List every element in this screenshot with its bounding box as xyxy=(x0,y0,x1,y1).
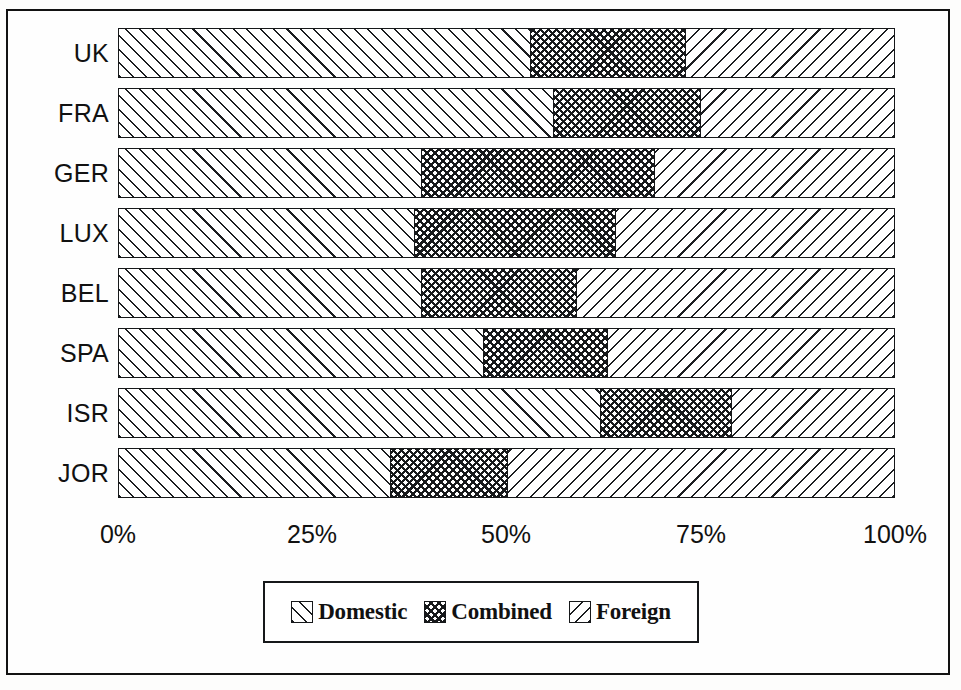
legend-label-combined: Combined xyxy=(451,599,552,625)
segment-combined xyxy=(421,149,654,197)
bar-track-spa xyxy=(118,328,895,378)
x-tick-0: 0% xyxy=(100,519,136,549)
segment-foreign xyxy=(507,449,895,497)
chart-legend: Domestic Combined Foreign xyxy=(263,581,699,643)
segment-foreign xyxy=(731,389,894,437)
segment-domestic xyxy=(119,449,390,497)
category-label-lux: LUX xyxy=(59,208,118,258)
segment-foreign xyxy=(700,89,894,137)
segment-domestic xyxy=(119,29,530,77)
segment-combined xyxy=(390,449,506,497)
legend-label-foreign: Foreign xyxy=(596,599,671,625)
bar-row: ISR xyxy=(118,388,895,438)
x-axis-tick-labels: 0% 25% 50% 75% 100% xyxy=(0,519,961,553)
bar-row: FRA xyxy=(118,88,895,138)
segment-domestic xyxy=(119,269,421,317)
segment-combined xyxy=(530,29,685,77)
segment-foreign xyxy=(576,269,894,317)
legend-entry-combined: Combined xyxy=(424,599,552,625)
category-label-fra: FRA xyxy=(58,88,118,138)
category-label-ger: GER xyxy=(54,148,118,198)
combined-crosshatch-swatch xyxy=(424,601,446,623)
segment-combined xyxy=(483,329,607,377)
figure-root: UK FRA GER xyxy=(0,0,961,690)
segment-domestic xyxy=(119,89,553,137)
segment-combined xyxy=(414,209,616,257)
bar-row: UK xyxy=(118,28,895,78)
bar-row: SPA xyxy=(118,328,895,378)
bar-row: BEL xyxy=(118,268,895,318)
legend-entry-foreign: Foreign xyxy=(569,599,671,625)
x-tick-75: 75% xyxy=(676,519,726,549)
bar-track-isr xyxy=(118,388,895,438)
segment-domestic xyxy=(119,329,483,377)
category-label-spa: SPA xyxy=(60,328,118,378)
x-tick-50: 50% xyxy=(481,519,531,549)
bar-row: GER xyxy=(118,148,895,198)
category-label-jor: JOR xyxy=(58,448,118,498)
bar-row: LUX xyxy=(118,208,895,258)
segment-combined xyxy=(421,269,576,317)
foreign-hatch-swatch xyxy=(569,601,591,623)
segment-domestic xyxy=(119,389,600,437)
bar-row: JOR xyxy=(118,448,895,498)
segment-combined xyxy=(600,389,732,437)
segment-combined xyxy=(553,89,700,137)
bar-track-fra xyxy=(118,88,895,138)
category-label-bel: BEL xyxy=(61,268,118,318)
bar-track-ger xyxy=(118,148,895,198)
legend-entry-domestic: Domestic xyxy=(291,599,407,625)
bar-track-lux xyxy=(118,208,895,258)
x-tick-100: 100% xyxy=(863,519,927,549)
segment-domestic xyxy=(119,209,414,257)
category-label-uk: UK xyxy=(74,28,118,78)
bar-track-jor xyxy=(118,448,895,498)
segment-foreign xyxy=(685,29,894,77)
segment-foreign xyxy=(615,209,894,257)
domestic-hatch-swatch xyxy=(291,601,313,623)
plot-area: UK FRA GER xyxy=(0,0,961,690)
bar-track-bel xyxy=(118,268,895,318)
segment-domestic xyxy=(119,149,421,197)
legend-label-domestic: Domestic xyxy=(318,599,407,625)
segment-foreign xyxy=(654,149,894,197)
x-tick-25: 25% xyxy=(287,519,337,549)
category-label-isr: ISR xyxy=(66,388,118,438)
segment-foreign xyxy=(607,329,894,377)
bar-track-uk xyxy=(118,28,895,78)
